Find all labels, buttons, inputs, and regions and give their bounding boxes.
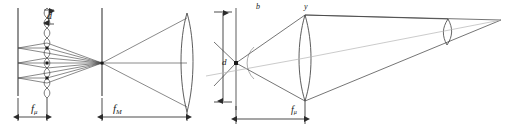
label-f-mu-right-sub: μ [294, 108, 297, 115]
exit-rays [305, 15, 501, 101]
label-d-left: d [47, 11, 52, 21]
main-lens [181, 13, 193, 112]
label-f-M: fM [113, 103, 122, 115]
right-panel [206, 8, 501, 124]
optical-diagram-figure: d fμ fM b y d fμ [0, 0, 509, 131]
label-f-mu-right: fμ [291, 105, 297, 116]
ray-bundles [18, 43, 102, 83]
left-panel [18, 8, 193, 121]
source-point [234, 61, 238, 65]
label-f-mu-left-sub: μ [34, 108, 37, 115]
label-f-mu-left: fμ [31, 103, 37, 115]
diagram-canvas [0, 0, 509, 131]
label-f-M-sub: M [116, 108, 122, 115]
chief-ray [206, 20, 501, 76]
angle-arc [247, 47, 254, 79]
marginal-rays [214, 15, 305, 101]
label-y: y [304, 3, 308, 11]
label-d-right: d [222, 58, 227, 67]
main-lens-cone [102, 18, 187, 107]
label-b: b [256, 3, 260, 11]
